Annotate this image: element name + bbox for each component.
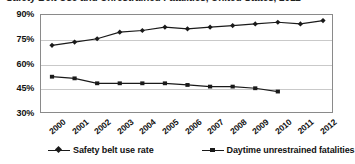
data-point-marker xyxy=(72,39,77,44)
legend-label: Daytime unrestrained fatalities xyxy=(227,145,355,155)
data-point-marker xyxy=(140,81,144,85)
data-point-marker xyxy=(230,23,235,28)
chart-title-clipped: Safety Belt Use and Unrestrained Fatalit… xyxy=(0,0,341,6)
x-axis-tick-label: 2011 xyxy=(296,117,316,136)
y-axis-tick-label: 45% xyxy=(17,83,34,93)
x-axis-tick-label: 2009 xyxy=(250,117,270,136)
data-point-marker xyxy=(276,90,280,94)
y-axis-labels: 30%45%60%75%90% xyxy=(0,14,37,113)
y-axis-tick-label: 30% xyxy=(17,108,34,118)
series-safety-belt-use-rate xyxy=(49,18,325,48)
x-axis-tick-label: 2003 xyxy=(115,117,135,136)
data-point-marker xyxy=(253,86,257,90)
series-daytime-unrestrained-fatalities xyxy=(50,75,280,94)
x-axis-tick-label: 2002 xyxy=(92,117,112,136)
x-axis-tick-label: 2008 xyxy=(228,117,248,136)
series-layer xyxy=(40,14,333,113)
data-point-marker xyxy=(117,30,122,35)
data-point-marker xyxy=(231,85,235,89)
x-axis-tick-label: 2012 xyxy=(318,117,338,136)
y-axis-tick-label: 75% xyxy=(17,34,34,44)
data-point-marker xyxy=(253,21,258,26)
x-axis-tick-label: 2000 xyxy=(47,117,67,136)
page-title: Safety Belt Use and Unrestrained Fatalit… xyxy=(6,0,301,3)
data-point-marker xyxy=(72,76,76,80)
data-point-marker xyxy=(163,81,167,85)
x-axis-tick-label: 2001 xyxy=(70,117,90,136)
data-point-marker xyxy=(140,28,145,33)
x-axis-tick-label: 2010 xyxy=(273,117,293,136)
data-point-marker xyxy=(118,81,122,85)
data-point-marker xyxy=(49,43,54,48)
data-point-marker xyxy=(95,81,99,85)
data-point-marker xyxy=(95,36,100,41)
diamond-marker-icon xyxy=(48,145,70,155)
legend-entry-daytime-unrestrained-fatalities[interactable]: Daytime unrestrained fatalities xyxy=(202,145,355,155)
y-axis-tick-label: 60% xyxy=(17,59,34,69)
x-axis-tick-label: 2005 xyxy=(160,117,180,136)
square-marker-icon xyxy=(202,145,224,155)
data-point-marker xyxy=(185,83,189,87)
data-point-marker xyxy=(275,20,280,25)
data-point-marker xyxy=(298,21,303,26)
legend-label: Safety belt use rate xyxy=(73,145,154,155)
data-point-marker xyxy=(50,75,54,79)
data-point-marker xyxy=(162,25,167,30)
legend-entry-safety-belt-use-rate[interactable]: Safety belt use rate xyxy=(48,145,154,155)
chart-legend: Safety belt use rateDaytime unrestrained… xyxy=(0,141,341,159)
x-axis-labels: 2000200120022003200420052006200720082009… xyxy=(40,113,333,139)
x-axis-tick-label: 2006 xyxy=(183,117,203,136)
data-point-marker xyxy=(185,26,190,31)
series-line xyxy=(52,21,323,46)
x-axis-tick-label: 2007 xyxy=(205,117,225,136)
data-point-marker xyxy=(207,25,212,30)
x-axis-tick-label: 2004 xyxy=(137,117,157,136)
data-point-marker xyxy=(208,85,212,89)
data-point-marker xyxy=(320,18,325,23)
y-axis-tick-label: 90% xyxy=(17,9,34,19)
